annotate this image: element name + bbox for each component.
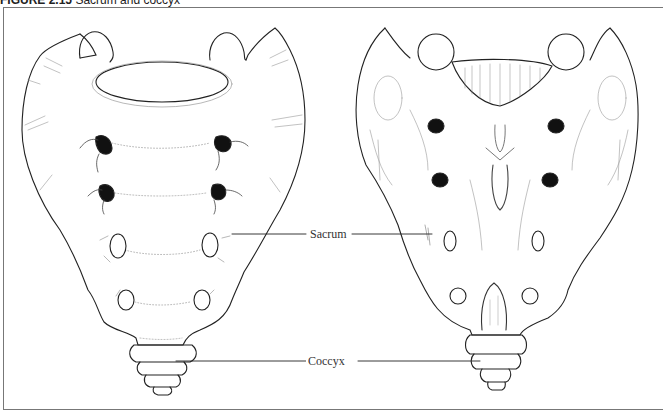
posterior-coccyx-drawing — [466, 335, 527, 390]
sacrum-label: Sacrum — [308, 227, 349, 241]
anterior-coccyx-drawing — [130, 345, 197, 395]
leader-lines — [176, 234, 480, 361]
anterior-sacrum-drawing — [22, 28, 305, 395]
coccyx-label: Coccyx — [306, 354, 347, 368]
posterior-sacrum-drawing — [356, 28, 638, 390]
